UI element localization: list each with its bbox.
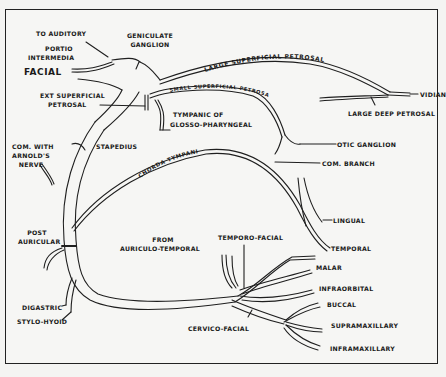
label-com-branch: COM. BRANCH — [322, 160, 375, 167]
label-vidian: VIDIAN — [420, 91, 446, 98]
label-digastric: DIGASTRIC — [22, 304, 62, 311]
geniculate-pointer — [136, 62, 139, 69]
label-from: FROM — [118, 236, 208, 243]
svg-text:LARGE SUPERFICIAL PETROSAL: LARGE SUPERFICIAL PETROSAL — [203, 52, 325, 73]
label-portio: PORTIO — [36, 45, 82, 52]
label-com-with: COM. WITH — [12, 143, 50, 150]
label-facial: FACIAL — [24, 67, 62, 77]
label-malar: MALAR — [316, 264, 342, 271]
label-supramaxillary: SUPRAMAXILLARY — [331, 322, 398, 329]
facial-trunk — [78, 79, 122, 90]
label-temporal: TEMPORAL — [331, 245, 371, 252]
label-petrosal: PETROSAL — [48, 101, 87, 108]
label-large-deep-petrosal: LARGE DEEP PETROSAL — [348, 110, 435, 117]
label-arnolds: ARNOLD'S — [12, 152, 50, 159]
svg-text:CHORDA TYMPANI: CHORDA TYMPANI — [137, 148, 199, 179]
label-to-auditory: TO AUDITORY — [36, 30, 86, 37]
label-ext-superficial: EXT SUPERFICIAL — [40, 92, 105, 99]
label-lingual: LINGUAL — [333, 217, 365, 224]
auditory-line — [86, 42, 108, 57]
label-cervico-facial: CERVICO-FACIAL — [188, 325, 249, 332]
label-stylo-hyoid: STYLO-HYOID — [17, 318, 67, 325]
label-nerve: NERVE — [12, 161, 50, 168]
label-buccal: BUCCAL — [327, 301, 356, 308]
label-large-superficial-petrosal: LARGE SUPERFICIAL PETROSAL — [203, 52, 325, 73]
label-ganglion: GANGLION — [120, 41, 180, 48]
label-chorda-tympani: CHORDA TYMPANI — [137, 148, 199, 179]
label-glosso-pharyngeal: GLOSSO-PHARYNGEAL — [170, 121, 252, 128]
label-auricular: AURICULAR — [18, 238, 60, 245]
label-auriculo-temporal: AURICULO-TEMPORAL — [120, 245, 200, 252]
label-geniculate: GENICULATE — [120, 32, 180, 39]
label-otic-ganglion: OTIC GANGLION — [337, 141, 396, 148]
label-intermedia: INTERMEDIA — [28, 54, 74, 61]
label-post: POST — [18, 229, 56, 236]
label-temporo-facial: TEMPORO-FACIAL — [218, 234, 283, 241]
label-tympanic-of: TYMPANIC OF — [173, 111, 224, 118]
label-infraorbital: INFRAORBITAL — [319, 285, 373, 292]
label-inframaxillary: INFRAMAXILLARY — [330, 345, 395, 352]
label-stapedius: STAPEDIUS — [96, 143, 137, 150]
